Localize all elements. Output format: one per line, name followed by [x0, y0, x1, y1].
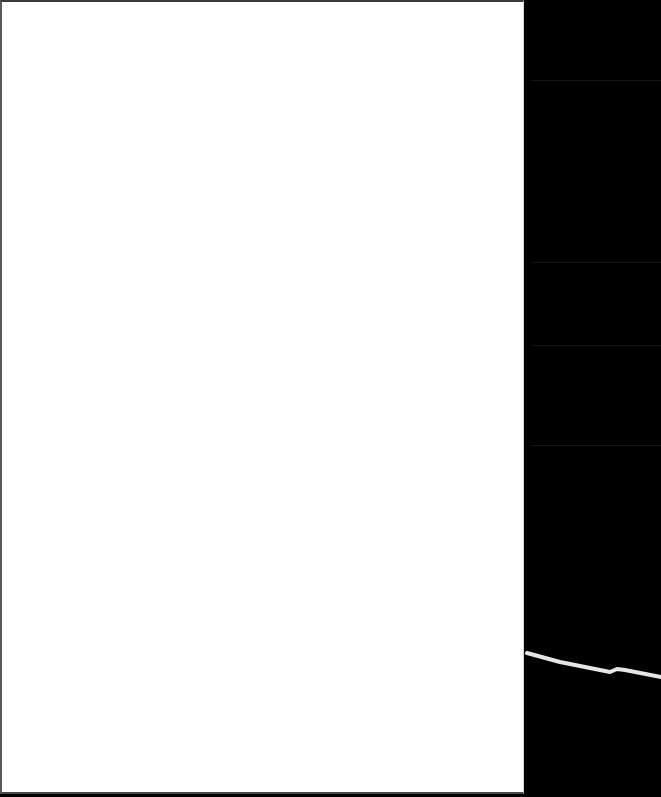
- dark-panel: [525, 0, 661, 797]
- wavy-light-stroke: [525, 0, 661, 797]
- screen: [0, 0, 661, 797]
- blank-page: [0, 0, 524, 794]
